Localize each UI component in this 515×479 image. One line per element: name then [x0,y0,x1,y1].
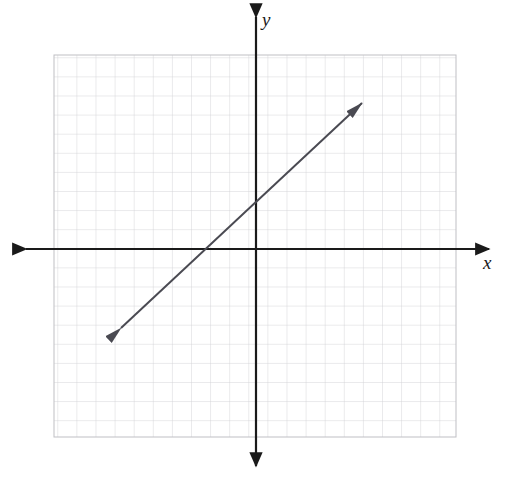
coordinate-plane-figure: y x [0,0,515,479]
graph-canvas [0,0,515,479]
y-axis-label: y [262,10,270,29]
x-axis-label: x [483,253,491,272]
